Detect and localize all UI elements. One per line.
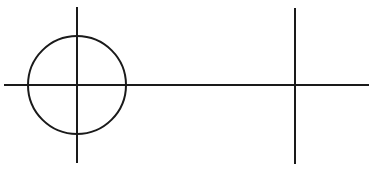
diagram-canvas [0,0,374,175]
crosshair-diagram [0,0,374,175]
